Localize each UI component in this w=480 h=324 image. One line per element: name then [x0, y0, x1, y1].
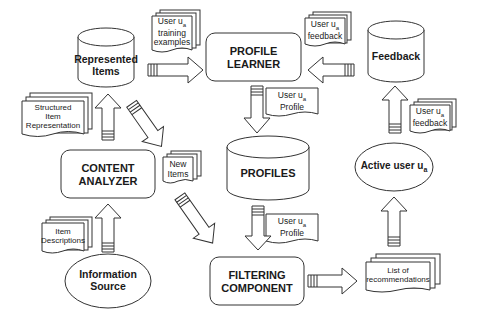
arrow-newitems-to-filtering [169, 189, 223, 251]
new-items-text: New Items [163, 160, 193, 180]
arrow-user-to-feedback [382, 86, 408, 133]
filtering-component-label: FILTERING COMPONENT [210, 269, 304, 294]
training-examples-text: User ua training examples [152, 17, 192, 48]
structured-item-text: Structured Item Representation [22, 103, 84, 131]
item-descriptions-text: Item Descriptions [40, 227, 86, 245]
arrow-items-to-newitems [121, 96, 172, 154]
recommendations-text: List of recommendations [366, 266, 430, 284]
arrow-analyzer-to-items [95, 94, 121, 140]
content-analyzer-label: CONTENT ANALYZER [61, 162, 155, 187]
arrow-items-to-learner [148, 57, 203, 83]
arrow-source-to-analyzer [95, 204, 121, 252]
represented-items-label: Represented Items [74, 53, 138, 77]
arrow-feedback-to-learner [308, 57, 354, 83]
feedback-top-text: User ua feedback [305, 20, 345, 41]
arrow-filtering-to-recommendations [308, 268, 357, 294]
feedback-right-text: User ua feedback [410, 107, 450, 128]
active-user-label: Active user ua [355, 160, 433, 174]
information-source-label: Information Source [65, 268, 151, 292]
profiles-label: PROFILES [227, 167, 309, 180]
arrow-recommendations-to-user [381, 197, 407, 246]
profile-bottom-text: User ua Profile [266, 217, 318, 238]
feedback-label: Feedback [366, 50, 426, 62]
profile-learner-label: PROFILE LEARNER [206, 45, 301, 70]
profile-top-text: User ua Profile [266, 91, 318, 112]
